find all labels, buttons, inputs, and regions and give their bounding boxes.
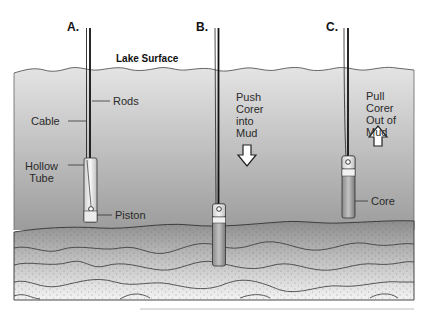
diagram-canvas xyxy=(0,0,429,312)
lake-surface-label: Lake Surface xyxy=(116,53,178,64)
piston xyxy=(89,207,94,212)
rods-label: Rods xyxy=(113,95,139,107)
hollow-tube-label: Hollow Tube xyxy=(25,160,58,184)
push-corer-label: Push Corer into Mud xyxy=(236,91,264,139)
cable-label: Cable xyxy=(31,115,60,127)
core-label: Core xyxy=(371,195,395,207)
pull-corer-label: Pull Corer Out of Mud xyxy=(366,90,396,138)
step-label-a: A. xyxy=(67,20,79,34)
step-label-b: B. xyxy=(196,20,208,34)
piston-label: Piston xyxy=(115,209,146,221)
step-label-c: C. xyxy=(326,20,338,34)
